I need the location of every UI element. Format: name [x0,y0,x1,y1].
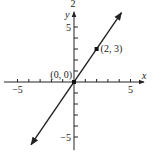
y-tick-label: 5 [66,22,71,33]
x-axis-label: x [141,70,147,81]
data-point [95,47,99,51]
chart-title: 2 [71,0,76,9]
x-tick-label: −5 [12,84,23,95]
y-tick-label: −5 [60,132,71,143]
data-point [72,80,76,84]
data-point-label: (2, 3) [101,43,123,55]
series-line [31,13,121,145]
x-tick-label: 5 [128,84,133,95]
chart: 2 x y −555−5 (0, 0)(2, 3) [0,0,161,153]
data-point-label: (0, 0) [50,69,72,81]
y-axis-label: y [64,9,70,20]
